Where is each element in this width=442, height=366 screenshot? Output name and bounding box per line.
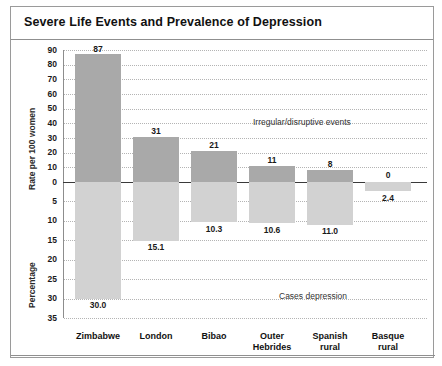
category-label-zimbabwe: Zimbabwe bbox=[69, 331, 127, 342]
category-label-london: London bbox=[127, 331, 185, 342]
bar-down-outer-hebrides bbox=[249, 182, 295, 223]
value-label-down-bibao: 10.3 bbox=[191, 224, 237, 234]
category-line-1: Outer bbox=[260, 331, 284, 341]
value-label-up-basque-rural: 0 bbox=[365, 170, 411, 180]
bar-down-zimbabwe bbox=[75, 182, 121, 299]
category-label-bibao: Bibao bbox=[185, 331, 243, 342]
title-bar: Severe Life Events and Prevalence of Dep… bbox=[11, 7, 433, 40]
bar-up-zimbabwe bbox=[75, 54, 121, 182]
ytick-upper-70: 70 bbox=[33, 75, 57, 84]
ytick-lower-20: 20 bbox=[33, 255, 57, 264]
ytick-lower-25: 25 bbox=[33, 275, 57, 284]
value-label-up-bibao: 21 bbox=[191, 140, 237, 150]
ytick-upper-40: 40 bbox=[33, 119, 57, 128]
category-axis: Zimbabwe London Bibao Outer Hebrides Spa… bbox=[63, 328, 427, 358]
ytick-upper-80: 80 bbox=[33, 60, 57, 69]
value-label-down-zimbabwe: 30.0 bbox=[75, 300, 121, 310]
bar-up-outer-hebrides bbox=[249, 166, 295, 182]
bar-up-bibao bbox=[191, 151, 237, 182]
y-axis-line bbox=[63, 50, 64, 318]
plot-area: Rate per 100 women Percentage 90 80 70 6… bbox=[11, 40, 435, 358]
bar-down-bibao bbox=[191, 182, 237, 222]
category-line-2: rural bbox=[378, 342, 398, 352]
chart-figure: Severe Life Events and Prevalence of Dep… bbox=[10, 6, 434, 358]
footer-rule bbox=[11, 355, 435, 356]
value-label-up-outer-hebrides: 11 bbox=[249, 155, 295, 165]
ytick-upper-60: 60 bbox=[33, 90, 57, 99]
ytick-upper-20: 20 bbox=[33, 148, 57, 157]
ytick-zero: 0 bbox=[33, 178, 57, 187]
value-label-down-outer-hebrides: 10.6 bbox=[249, 225, 295, 235]
value-label-down-spanish-rural: 11.0 bbox=[307, 226, 353, 236]
plot-canvas: 87 30.0 31 15.1 21 10.3 11 10.6 8 11.0 bbox=[63, 50, 427, 318]
ytick-upper-30: 30 bbox=[33, 134, 57, 143]
ytick-lower-15: 15 bbox=[33, 236, 57, 245]
category-line-1: Zimbabwe bbox=[76, 331, 120, 341]
ytick-lower-30: 30 bbox=[33, 294, 57, 303]
chart-title: Severe Life Events and Prevalence of Dep… bbox=[24, 15, 322, 29]
bar-up-spanish-rural bbox=[307, 170, 353, 182]
value-label-up-spanish-rural: 8 bbox=[307, 159, 353, 169]
value-label-up-london: 31 bbox=[133, 126, 179, 136]
category-line-1: Spanish bbox=[312, 331, 347, 341]
ytick-upper-90: 90 bbox=[33, 46, 57, 55]
ytick-upper-10: 10 bbox=[33, 163, 57, 172]
category-line-1: London bbox=[140, 331, 173, 341]
gridline-lower-35 bbox=[64, 318, 427, 319]
category-line-1: Bibao bbox=[201, 331, 226, 341]
category-line-2: Hebrides bbox=[253, 342, 292, 352]
value-label-up-zimbabwe: 87 bbox=[75, 44, 121, 54]
bar-down-basque-rural bbox=[365, 182, 411, 191]
category-line-1: Basque bbox=[372, 331, 405, 341]
annotation-lower: Cases depression bbox=[279, 291, 347, 301]
ytick-upper-50: 50 bbox=[33, 104, 57, 113]
category-line-2: rural bbox=[320, 342, 340, 352]
ytick-lower-35: 35 bbox=[33, 314, 57, 323]
value-label-down-basque-rural: 2.4 bbox=[365, 193, 411, 203]
category-label-spanish-rural: Spanish rural bbox=[301, 331, 359, 353]
annotation-upper: Irregular/disruptive events bbox=[253, 117, 351, 127]
bar-down-london bbox=[133, 182, 179, 241]
category-label-basque-rural: Basque rural bbox=[359, 331, 417, 353]
ytick-lower-5: 5 bbox=[33, 197, 57, 206]
value-label-down-london: 15.1 bbox=[133, 242, 179, 252]
category-label-outer-hebrides: Outer Hebrides bbox=[243, 331, 301, 353]
bar-down-spanish-rural bbox=[307, 182, 353, 225]
ytick-lower-10: 10 bbox=[33, 216, 57, 225]
bar-up-london bbox=[133, 137, 179, 183]
